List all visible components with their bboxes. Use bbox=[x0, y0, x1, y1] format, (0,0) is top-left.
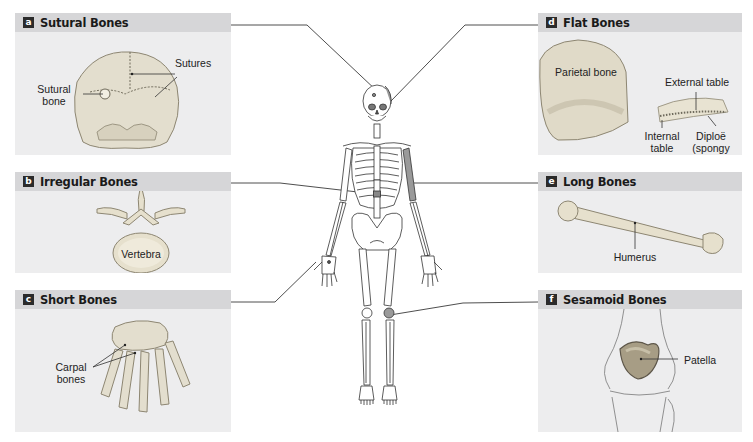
panel-title: Flat Bones bbox=[563, 16, 630, 30]
panel-badge: b bbox=[23, 176, 34, 187]
panel-header: d Flat Bones bbox=[538, 13, 742, 32]
panel-header: e Long Bones bbox=[538, 172, 742, 191]
panel-header: a Sutural Bones bbox=[15, 13, 231, 32]
panel-short-bones: c Short Bones Carpal bones bbox=[15, 290, 231, 432]
knee-patella-illustration bbox=[538, 309, 742, 432]
label-vertebra: Vertebra bbox=[121, 248, 161, 260]
label-carpal-bones: Carpal bones bbox=[47, 361, 95, 385]
label-sutural-bone: Sutural bone bbox=[29, 83, 79, 107]
vertebra-illustration bbox=[15, 191, 231, 273]
panel-long-bones: e Long Bones Humerus bbox=[538, 172, 742, 273]
panel-header: c Short Bones bbox=[15, 290, 231, 309]
panel-sutural-bones: a Sutural Bones Sutural bone Sutures bbox=[15, 13, 231, 155]
panel-title: Sutural Bones bbox=[40, 16, 128, 30]
skeleton-figure bbox=[290, 20, 470, 435]
humerus-highlight bbox=[403, 148, 416, 201]
label-parietal-bone: Parietal bone bbox=[554, 66, 618, 78]
label-internal-table: Internal table bbox=[643, 130, 681, 154]
panel-flat-bones: d Flat Bones Parietal bone External tabl… bbox=[538, 13, 742, 155]
panel-title: Irregular Bones bbox=[40, 175, 138, 189]
panel-title: Short Bones bbox=[40, 293, 117, 307]
label-humerus: Humerus bbox=[610, 251, 660, 263]
carpal-highlight bbox=[328, 261, 331, 264]
panel-badge: c bbox=[23, 294, 34, 305]
panel-badge: f bbox=[546, 294, 557, 305]
vertebra-highlight bbox=[374, 191, 381, 197]
panel-badge: a bbox=[23, 17, 34, 28]
panel-badge: e bbox=[546, 176, 557, 187]
label-diploe: Diploë (spongy bone) bbox=[688, 130, 734, 155]
label-patella: Patella bbox=[684, 354, 716, 366]
patella-highlight bbox=[384, 308, 394, 318]
panel-sesamoid-bones: f Sesamoid Bones Patella bbox=[538, 290, 742, 432]
panel-title: Long Bones bbox=[563, 175, 636, 189]
panel-irregular-bones: b Irregular Bones Vertebra bbox=[15, 172, 231, 273]
label-external-table: External table bbox=[664, 76, 730, 88]
panel-header: b Irregular Bones bbox=[15, 172, 231, 191]
panel-badge: d bbox=[546, 17, 557, 28]
panel-header: f Sesamoid Bones bbox=[538, 290, 742, 309]
label-sutures: Sutures bbox=[175, 57, 211, 69]
panel-title: Sesamoid Bones bbox=[563, 293, 666, 307]
